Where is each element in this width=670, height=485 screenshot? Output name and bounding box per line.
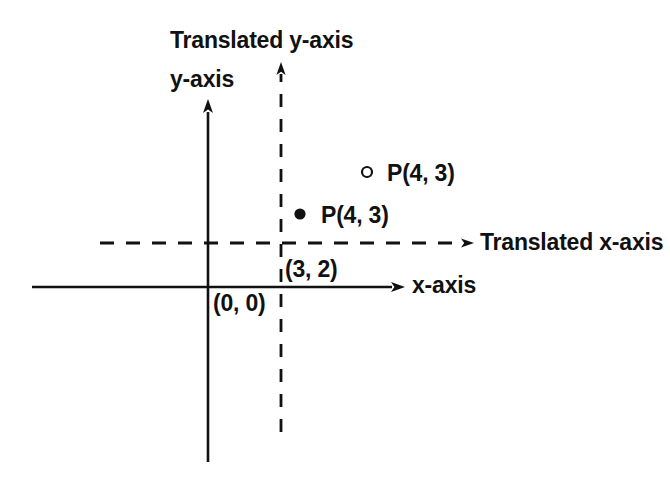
translated-x-axis-label: Translated x-axis <box>480 231 663 254</box>
point-label-translated: P(4, 3) <box>387 162 455 185</box>
point-label-original: P(4, 3) <box>321 204 389 227</box>
translated-axes-diagram: Translated y-axis y-axis P(4, 3) P(4, 3)… <box>0 0 670 485</box>
origin-label: (0, 0) <box>213 292 265 315</box>
y-axis-label: y-axis <box>170 68 234 91</box>
x-axis-label: x-axis <box>412 274 476 297</box>
translated-origin-label: (3, 2) <box>285 258 337 281</box>
point-marker-filled <box>294 208 305 219</box>
translated-y-axis-label: Translated y-axis <box>170 29 353 52</box>
point-marker-open <box>362 167 372 177</box>
